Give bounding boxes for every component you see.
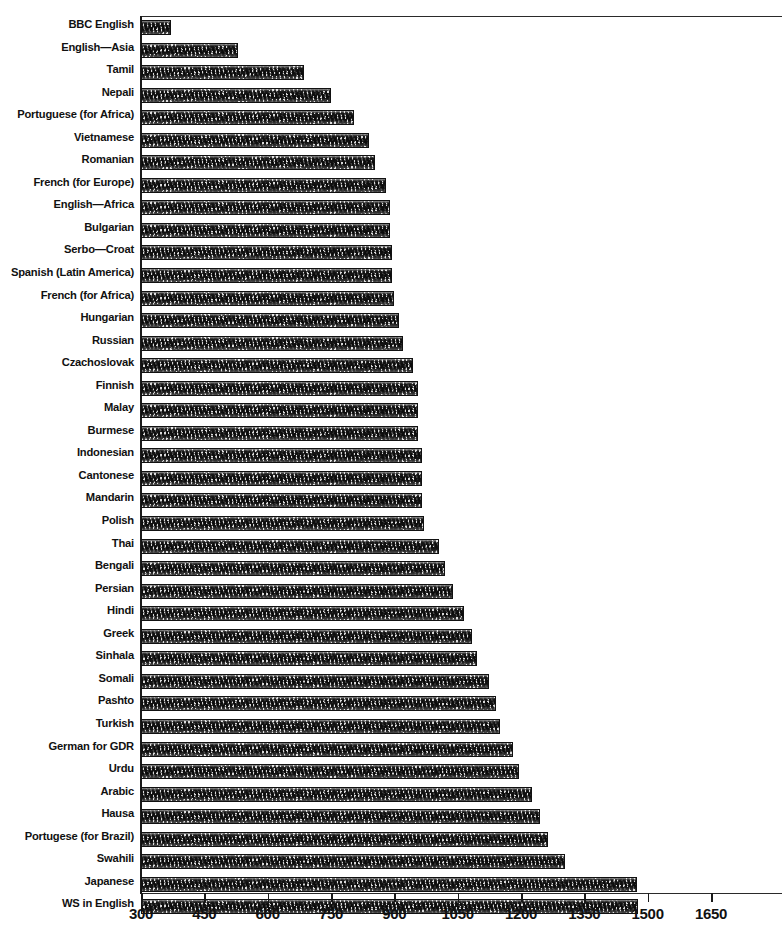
category-label: Hindi: [0, 604, 134, 617]
category-label: Polish: [0, 514, 134, 527]
bar-track: [141, 696, 496, 711]
bar-track: [141, 291, 394, 306]
category-label: Romanian: [0, 153, 134, 166]
bar-row: Bengali: [0, 557, 782, 580]
x-axis-tick: [458, 893, 460, 902]
bar-track: [141, 561, 445, 576]
bar: [141, 200, 390, 215]
x-axis-tick: [711, 893, 713, 902]
bar-row: Urdu: [0, 760, 782, 783]
bar-row: Mandarin: [0, 489, 782, 512]
bar-row: Indonesian: [0, 444, 782, 467]
category-label: French (for Europe): [0, 176, 134, 189]
x-axis-tick: [584, 893, 586, 902]
bar: [141, 854, 565, 869]
bar-track: [141, 155, 375, 170]
category-label: BBC English: [0, 18, 134, 31]
bar-track: [141, 606, 464, 621]
bar-row: Vietnamese: [0, 129, 782, 152]
bar-row: Sinhala: [0, 647, 782, 670]
bar: [141, 493, 422, 508]
bar-row: Serbo—Croat: [0, 241, 782, 264]
category-label: Tamil: [0, 63, 134, 76]
bar: [141, 764, 519, 779]
bar-row: Finnish: [0, 377, 782, 400]
bar: [141, 719, 500, 734]
bar-track: [141, 245, 392, 260]
bar-row: Burmese: [0, 422, 782, 445]
x-axis-tick: [331, 893, 333, 902]
bar: [141, 88, 331, 103]
bar-row: Malay: [0, 399, 782, 422]
bar: [141, 358, 413, 373]
bar: [141, 539, 439, 554]
bar: [141, 43, 238, 58]
bar: [141, 20, 171, 35]
bar-track: [141, 629, 472, 644]
category-label: English—Asia: [0, 41, 134, 54]
bar-track: [141, 133, 369, 148]
bar: [141, 313, 399, 328]
bar-row: Hausa: [0, 805, 782, 828]
category-label: Russian: [0, 334, 134, 347]
bar-track: [141, 448, 422, 463]
category-label: Burmese: [0, 424, 134, 437]
x-axis-tick: [648, 893, 650, 902]
bar-track: [141, 268, 392, 283]
category-label: Turkish: [0, 717, 134, 730]
bar-track: [141, 20, 171, 35]
category-label: Persian: [0, 582, 134, 595]
bar-track: [141, 854, 565, 869]
bar-row: Hungarian: [0, 309, 782, 332]
x-axis-tick: [394, 893, 396, 902]
bar-track: [141, 584, 453, 599]
bar-row: Portugese (for Brazil): [0, 828, 782, 851]
bar: [141, 629, 472, 644]
bar: [141, 291, 394, 306]
bar-row: Cantonese: [0, 467, 782, 490]
bar-track: [141, 88, 331, 103]
bar-track: [141, 65, 304, 80]
category-label: Thai: [0, 537, 134, 550]
category-label: Somali: [0, 672, 134, 685]
category-label: Indonesian: [0, 446, 134, 459]
category-label: Swahili: [0, 852, 134, 865]
bar: [141, 110, 354, 125]
bar-row: Pashto: [0, 692, 782, 715]
bar-row: English—Asia: [0, 39, 782, 62]
bar-track: [141, 787, 532, 802]
bar-track: [141, 764, 519, 779]
category-label: Greek: [0, 627, 134, 640]
bar: [141, 606, 464, 621]
category-label: Nepali: [0, 86, 134, 99]
bar-row: Greek: [0, 625, 782, 648]
bar-track: [141, 223, 390, 238]
bar-row: Hindi: [0, 602, 782, 625]
bar-row: Thai: [0, 535, 782, 558]
bar-track: [141, 539, 439, 554]
category-label: Hausa: [0, 807, 134, 820]
bar: [141, 832, 548, 847]
bar-track: [141, 110, 354, 125]
bar-track: [141, 674, 489, 689]
bar: [141, 155, 375, 170]
bar-chart: BBC EnglishEnglish—AsiaTamilNepaliPortug…: [0, 0, 782, 941]
bar-row: Spanish (Latin America): [0, 264, 782, 287]
bar-track: [141, 809, 540, 824]
category-label: Cantonese: [0, 469, 134, 482]
bar-row: German for GDR: [0, 738, 782, 761]
bar-track: [141, 493, 422, 508]
bar: [141, 471, 422, 486]
bar: [141, 426, 418, 441]
bar-track: [141, 403, 418, 418]
bar: [141, 403, 418, 418]
bar-rows: BBC EnglishEnglish—AsiaTamilNepaliPortug…: [0, 16, 782, 918]
category-label: French (for Africa): [0, 289, 134, 302]
bar-track: [141, 200, 390, 215]
category-label: Hungarian: [0, 311, 134, 324]
bar-track: [141, 336, 403, 351]
bar-track: [141, 426, 418, 441]
bar: [141, 584, 453, 599]
bar: [141, 877, 637, 892]
bar-row: Swahili: [0, 850, 782, 873]
